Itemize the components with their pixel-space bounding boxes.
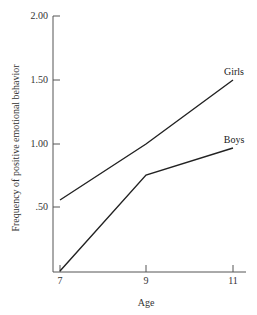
line-chart: 2.00 1.50 1.00 .50 7 9 11 Age Frequency … <box>0 0 257 315</box>
x-tick-label: 9 <box>144 275 149 286</box>
series-label-boys: Boys <box>224 134 245 145</box>
series-label-girls: Girls <box>224 66 244 77</box>
x-axis-title: Age <box>138 297 155 308</box>
series-girls-line <box>60 80 233 200</box>
y-tick-label: 1.00 <box>31 138 49 149</box>
x-tick-label: 7 <box>58 275 63 286</box>
y-tick-label: 1.50 <box>31 74 49 85</box>
series-boys-line <box>60 148 233 271</box>
x-tick-label: 11 <box>228 275 238 286</box>
y-tick-label: .50 <box>36 201 49 212</box>
y-tick-label: 2.00 <box>31 10 49 21</box>
y-axis-title: Frequency of positive emotional behavior <box>10 64 21 232</box>
